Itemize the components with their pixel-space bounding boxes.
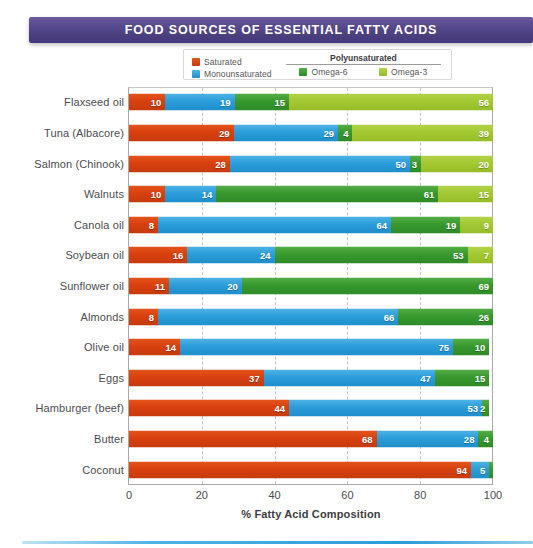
bar-segment-saturated[interactable]: 29 bbox=[129, 124, 234, 141]
chart-title-banner: FOOD SOURCES OF ESSENTIAL FATTY ACIDS bbox=[29, 17, 533, 43]
stacked-bar[interactable]: 945 bbox=[129, 461, 493, 478]
bar-segment-monounsaturated[interactable]: 5 bbox=[471, 461, 489, 478]
stacked-bar[interactable]: 1624537 bbox=[129, 247, 493, 264]
bar-segment-omega3[interactable]: 20 bbox=[421, 155, 493, 172]
x-tick-label-100: 100 bbox=[484, 489, 502, 501]
bar-row[interactable]: Coconut945 bbox=[0, 454, 533, 485]
stacked-bar[interactable]: 147510 bbox=[129, 339, 493, 356]
bar-segment-value: 10 bbox=[151, 189, 166, 200]
bar-segment-omega6[interactable]: 15 bbox=[435, 369, 490, 386]
bar-segment-omega3[interactable]: 9 bbox=[460, 216, 493, 233]
category-label: Sunflower oil bbox=[60, 280, 124, 292]
bar-segment-omega6[interactable]: 69 bbox=[242, 277, 493, 294]
bar-segment-saturated[interactable]: 10 bbox=[129, 94, 165, 111]
page-title: FOOD SOURCES OF ESSENTIAL FATTY ACIDS bbox=[125, 23, 438, 37]
bar-segment-value: 75 bbox=[438, 342, 453, 353]
stacked-bar[interactable]: 864199 bbox=[129, 216, 493, 233]
bar-row[interactable]: Tuna (Albacore)2929439 bbox=[0, 118, 533, 149]
bar-segment-monounsaturated[interactable]: 20 bbox=[169, 277, 242, 294]
bar-segment-value: 11 bbox=[155, 280, 169, 291]
bar-segment-value: 29 bbox=[219, 127, 234, 138]
stacked-bar[interactable]: 2929439 bbox=[129, 124, 493, 141]
stacked-bar[interactable]: 10191556 bbox=[129, 94, 493, 111]
bar-row[interactable]: Flaxseed oil10191556 bbox=[0, 87, 533, 118]
bar-segment-saturated[interactable]: 44 bbox=[129, 400, 289, 417]
bar-segment-monounsaturated[interactable]: 50 bbox=[230, 155, 410, 172]
bar-segment-monounsaturated[interactable]: 29 bbox=[234, 124, 339, 141]
x-tick-label-20: 20 bbox=[196, 489, 208, 501]
bar-segment-value: 3 bbox=[412, 158, 421, 169]
bar-segment-monounsaturated[interactable]: 14 bbox=[165, 186, 216, 203]
bar-segment-omega6[interactable]: 15 bbox=[235, 94, 290, 111]
stacked-bar[interactable]: 112069 bbox=[129, 277, 493, 294]
legend-label-saturated: Saturated bbox=[204, 57, 242, 67]
bar-segment-saturated[interactable]: 8 bbox=[129, 308, 158, 325]
x-axis-title: % Fatty Acid Composition bbox=[128, 508, 494, 520]
bar-segment-value: 7 bbox=[484, 250, 493, 261]
stacked-bar[interactable]: 86626 bbox=[129, 308, 493, 325]
bar-row[interactable]: Hamburger (beef)44532 bbox=[0, 393, 533, 424]
bar-segment-saturated[interactable]: 14 bbox=[129, 339, 180, 356]
bar-segment-omega6[interactable]: 2 bbox=[482, 400, 489, 417]
bar-segment-saturated[interactable]: 8 bbox=[129, 216, 158, 233]
legend-group-bracket bbox=[286, 64, 441, 65]
bar-segment-monounsaturated[interactable]: 66 bbox=[158, 308, 398, 325]
bar-segment-value: 4 bbox=[484, 434, 493, 445]
stacked-bar[interactable]: 374715 bbox=[129, 369, 493, 386]
bar-row[interactable]: Sunflower oil112069 bbox=[0, 271, 533, 302]
stacked-bar[interactable]: 44532 bbox=[129, 400, 493, 417]
bar-segment-monounsaturated[interactable]: 64 bbox=[158, 216, 391, 233]
bar-row[interactable]: Olive oil147510 bbox=[0, 332, 533, 363]
bar-row[interactable]: Eggs374715 bbox=[0, 363, 533, 394]
bar-row[interactable]: Butter68284 bbox=[0, 424, 533, 455]
bar-segment-value: 94 bbox=[457, 464, 472, 475]
bar-segment-omega3[interactable]: 15 bbox=[438, 186, 493, 203]
bar-segment-saturated[interactable]: 11 bbox=[129, 277, 169, 294]
bar-row[interactable]: Soybean oil1624537 bbox=[0, 240, 533, 271]
bar-row[interactable]: Canola oil864199 bbox=[0, 209, 533, 240]
bar-row[interactable]: Salmon (Chinook)2850320 bbox=[0, 148, 533, 179]
stacked-bar[interactable]: 10146115 bbox=[129, 186, 493, 203]
bar-segment-omega3[interactable]: 39 bbox=[352, 124, 493, 141]
bar-segment-monounsaturated[interactable]: 28 bbox=[377, 431, 479, 448]
bar-segment-omega6[interactable]: 3 bbox=[410, 155, 421, 172]
bar-rows-container: Flaxseed oil10191556Tuna (Albacore)29294… bbox=[0, 0, 533, 548]
bar-row[interactable]: Almonds86626 bbox=[0, 301, 533, 332]
bar-segment-omega6[interactable]: 10 bbox=[453, 339, 489, 356]
bar-segment-omega6[interactable]: 61 bbox=[216, 186, 438, 203]
legend-item-saturated: Saturated bbox=[192, 57, 272, 67]
bar-segment-value: 20 bbox=[478, 158, 493, 169]
bar-segment-omega3[interactable]: 7 bbox=[468, 247, 493, 264]
bar-segment-omega6[interactable]: 26 bbox=[398, 308, 493, 325]
bar-segment-monounsaturated[interactable]: 53 bbox=[289, 400, 482, 417]
category-label: Canola oil bbox=[74, 219, 124, 231]
bar-segment-saturated[interactable]: 94 bbox=[129, 461, 471, 478]
bar-segment-saturated[interactable]: 16 bbox=[129, 247, 187, 264]
bar-segment-omega6[interactable]: 4 bbox=[478, 431, 493, 448]
bar-segment-monounsaturated[interactable]: 75 bbox=[180, 339, 453, 356]
bar-segment-saturated[interactable]: 68 bbox=[129, 431, 377, 448]
bar-segment-monounsaturated[interactable]: 24 bbox=[187, 247, 274, 264]
legend-item-monounsaturated: Monounsaturated bbox=[192, 69, 272, 79]
bar-segment-omega6[interactable]: 19 bbox=[391, 216, 460, 233]
bar-segment-omega6[interactable]: 4 bbox=[338, 124, 352, 141]
category-label: Salmon (Chinook) bbox=[34, 158, 124, 170]
bar-segment-omega3[interactable]: 56 bbox=[289, 94, 493, 111]
bar-row[interactable]: Walnuts10146115 bbox=[0, 179, 533, 210]
category-label: Tuna (Albacore) bbox=[44, 127, 124, 139]
bar-segment-omega6[interactable]: 53 bbox=[275, 247, 468, 264]
bar-segment-value: 47 bbox=[420, 372, 435, 383]
bar-segment-saturated[interactable]: 10 bbox=[129, 186, 165, 203]
stacked-bar[interactable]: 68284 bbox=[129, 431, 493, 448]
legend-item-omega3: Omega-3 bbox=[379, 67, 427, 77]
x-tick-label-0: 0 bbox=[126, 489, 132, 501]
bar-segment-value: 68 bbox=[362, 434, 377, 445]
bar-segment-saturated[interactable]: 37 bbox=[129, 369, 264, 386]
category-label: Eggs bbox=[99, 372, 124, 384]
stacked-bar[interactable]: 2850320 bbox=[129, 155, 493, 172]
monounsaturated-swatch-icon bbox=[192, 70, 200, 78]
bar-segment-omega6[interactable] bbox=[489, 461, 493, 478]
bar-segment-monounsaturated[interactable]: 47 bbox=[264, 369, 435, 386]
bar-segment-monounsaturated[interactable]: 19 bbox=[165, 94, 234, 111]
bar-segment-saturated[interactable]: 28 bbox=[129, 155, 230, 172]
